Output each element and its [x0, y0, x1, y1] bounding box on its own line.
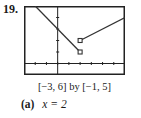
- answer-part-label: (a): [21, 98, 34, 110]
- answer-line: (a) x = 2: [21, 98, 67, 110]
- answer-expression: x = 2: [42, 98, 66, 110]
- plot-svg: [24, 6, 125, 75]
- open-endpoint-marker: [78, 50, 82, 54]
- window-caption: [−3, 6] by [−1, 5]: [0, 81, 141, 92]
- plot-frame: [25, 7, 125, 75]
- graph-line: [80, 18, 125, 41]
- open-endpoint-marker: [78, 39, 82, 43]
- problem-number: 19.: [3, 2, 18, 17]
- graphing-calculator-plot: [24, 6, 125, 75]
